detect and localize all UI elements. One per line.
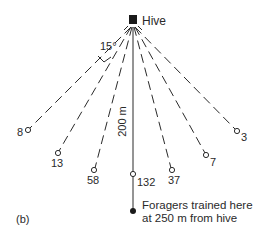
hive-label: Hive — [142, 16, 166, 27]
radial-line-3 — [135, 27, 235, 129]
station-count-3: 3 — [241, 132, 247, 143]
angle-marker — [98, 56, 111, 62]
station-count-13: 13 — [51, 158, 63, 169]
station-count-58: 58 — [87, 175, 99, 186]
station-circle-13 — [55, 150, 60, 155]
hive-marker — [129, 15, 137, 24]
station-count-8: 8 — [17, 127, 23, 138]
station-count-37: 37 — [168, 175, 180, 186]
station-circle-3 — [234, 128, 239, 133]
station-circle-8 — [25, 127, 30, 132]
radial-line-7 — [135, 27, 205, 153]
distance-label: 200 m — [117, 105, 128, 139]
feeder-dot — [130, 208, 136, 214]
fan-experiment-diagram: Hive 15° 200 m 8 13 58 132 37 7 3 Forage… — [0, 0, 264, 239]
station-count-7: 7 — [210, 157, 216, 168]
angle-label: 15° — [100, 41, 117, 52]
station-count-132: 132 — [137, 177, 155, 188]
station-circle-7 — [203, 152, 208, 157]
station-circle-37 — [169, 167, 174, 172]
radial-line-37 — [134, 27, 171, 168]
feeder-note-line1: Foragers trained here — [142, 199, 253, 212]
station-circle-132 — [130, 171, 135, 176]
panel-label: (b) — [16, 214, 29, 225]
feeder-note-line2: at 250 m from hive — [142, 212, 237, 225]
station-circle-58 — [91, 167, 96, 172]
